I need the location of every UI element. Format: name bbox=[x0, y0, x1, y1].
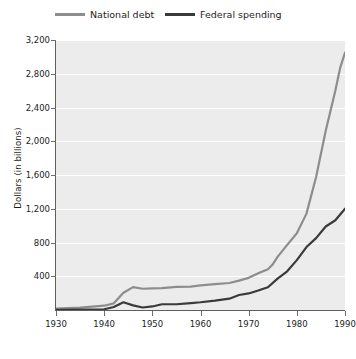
x-tick-mark bbox=[104, 311, 105, 316]
x-tick-label: 1940 bbox=[93, 319, 115, 329]
x-tick-label: 1960 bbox=[190, 319, 212, 329]
y-tick-mark bbox=[51, 74, 56, 75]
y-tick-mark bbox=[51, 108, 56, 109]
y-tick-mark bbox=[51, 276, 56, 277]
x-tick-label: 1950 bbox=[142, 319, 164, 329]
x-tick-mark bbox=[297, 311, 298, 316]
x-tick-label: 1970 bbox=[238, 319, 260, 329]
x-tick-label: 1930 bbox=[45, 319, 67, 329]
x-tick-mark bbox=[56, 311, 57, 316]
y-tick-mark bbox=[51, 175, 56, 176]
x-tick-mark bbox=[201, 311, 202, 316]
y-tick-mark bbox=[51, 141, 56, 142]
y-tick-mark bbox=[51, 243, 56, 244]
x-tick-label: 1980 bbox=[286, 319, 308, 329]
x-tick-mark bbox=[152, 311, 153, 316]
x-tick-mark bbox=[345, 311, 346, 316]
x-tick-mark bbox=[249, 311, 250, 316]
y-tick-mark bbox=[51, 209, 56, 210]
y-tick-mark bbox=[51, 40, 56, 41]
x-tick-label: 1990 bbox=[334, 319, 356, 329]
